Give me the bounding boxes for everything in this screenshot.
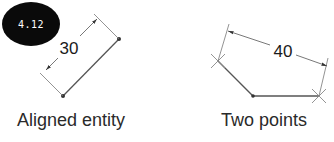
dimension-value-text: 40 bbox=[274, 42, 293, 61]
dimension-line bbox=[228, 31, 270, 45]
dimension-line bbox=[80, 19, 97, 36]
dimension-line bbox=[46, 58, 58, 70]
polyline-entity bbox=[218, 61, 319, 96]
caption-aligned-entity: Aligned entity bbox=[17, 110, 125, 131]
caption-two-points: Two points bbox=[221, 110, 307, 131]
two-points-figure: 40 bbox=[211, 24, 328, 103]
extension-line bbox=[40, 73, 63, 96]
dimension-value-text: 30 bbox=[60, 39, 79, 58]
extension-line bbox=[94, 14, 119, 39]
aligned-entity-figure: 30 bbox=[40, 14, 121, 98]
dimension-line bbox=[296, 55, 327, 66]
vertex-icon bbox=[251, 94, 255, 98]
